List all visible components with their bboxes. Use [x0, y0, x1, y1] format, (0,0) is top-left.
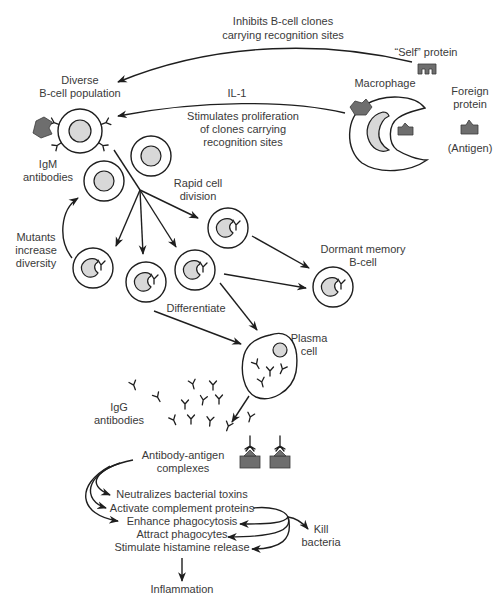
- antigen-label: (Antigen): [448, 142, 493, 154]
- dormant-label-line2: B-cell: [349, 256, 377, 268]
- complex-label-line1: Antibody-antigen: [142, 449, 225, 461]
- effect-neutralizes: Neutralizes bacterial toxins: [116, 488, 248, 500]
- inhibits-label-line1: Inhibits B-cell clones: [233, 15, 334, 27]
- foreign-protein-icon: [461, 120, 478, 134]
- diverse-b-cell: [49, 109, 111, 153]
- memory-arrow-2: [224, 274, 306, 288]
- complement-to-kill-arrow: [288, 517, 308, 529]
- division-arrow-1: [116, 190, 140, 246]
- macrophage-icon: [350, 97, 427, 171]
- self-protein-icon: [418, 64, 436, 74]
- antibody-antigen-complex-2: [270, 436, 290, 468]
- memory-b-cell: [313, 267, 353, 307]
- mutants-arrow: [63, 198, 78, 258]
- macrophage-label: Macrophage: [354, 77, 415, 89]
- inflammation-label: Inflammation: [151, 583, 214, 595]
- b-cell-clone-1: [73, 248, 113, 288]
- effect-attract-phagocytes: Attract phagocytes: [136, 528, 228, 540]
- effect-activate-complement: Activate complement proteins: [110, 502, 255, 514]
- complement-to-histamine-arrow: [252, 517, 289, 549]
- self-protein-label: “Self” protein: [395, 46, 458, 58]
- b-cell-ring-2: [84, 161, 124, 201]
- igg-label-line1: IgG: [110, 401, 128, 413]
- complex-label-line2: complexes: [157, 462, 210, 474]
- bound-antigen-icon: [33, 117, 52, 138]
- foreign-label-line1: Foreign: [451, 85, 488, 97]
- b-cell-clone-3: [175, 250, 215, 290]
- igm-label-line2: antibodies: [23, 171, 74, 183]
- b-cell-clone-4: [208, 208, 248, 248]
- rapid-division-label-line2: division: [180, 190, 217, 202]
- mutants-label-line1: Mutants: [16, 231, 56, 243]
- kill-label-line1: Kill: [314, 523, 329, 535]
- plasma-cell: [242, 333, 297, 398]
- mutants-label-line2: increase: [15, 244, 57, 256]
- stimulates-label-line3: recognition sites: [203, 136, 283, 148]
- plasma-label-line2: cell: [301, 345, 318, 357]
- memory-arrow-1: [252, 236, 309, 268]
- differentiate-label: Differentiate: [166, 302, 225, 314]
- diverse-label-line2: B-cell population: [39, 87, 120, 99]
- plasma-arrow-2: [154, 311, 241, 344]
- foreign-label-line2: protein: [453, 98, 487, 110]
- diverse-label-line1: Diverse: [61, 74, 98, 86]
- stimulates-label-line2: of clones carrying: [200, 123, 286, 135]
- b-cell-clone-2: [126, 262, 166, 302]
- igg-antibodies: [129, 379, 255, 432]
- stimulates-label-line1: Stimulates proliferation: [187, 110, 299, 122]
- dormant-label-line1: Dormant memory: [321, 243, 406, 255]
- division-arrow-2: [140, 190, 143, 254]
- mutants-label-line3: diversity: [16, 257, 57, 269]
- igg-label-line2: antibodies: [94, 414, 145, 426]
- kill-label-line2: bacteria: [301, 536, 341, 548]
- il1-label: IL-1: [228, 87, 247, 99]
- rapid-division-label-line1: Rapid cell: [174, 177, 222, 189]
- igm-label-line1: IgM: [39, 158, 57, 170]
- inhibits-label-line2: carrying recognition sites: [222, 29, 344, 41]
- antibody-antigen-complex-1: [240, 436, 260, 468]
- b-cell-clonal-selection-diagram: Inhibits B-cell clones carrying recognit…: [0, 0, 504, 614]
- effect-histamine: Stimulate histamine release: [114, 541, 249, 553]
- plasma-label-line1: Plasma: [291, 332, 329, 344]
- secrete-arrow: [232, 396, 249, 422]
- b-cell-ring-1: [131, 136, 171, 176]
- effect-enhance-phagocytosis: Enhance phagocytosis: [127, 515, 238, 527]
